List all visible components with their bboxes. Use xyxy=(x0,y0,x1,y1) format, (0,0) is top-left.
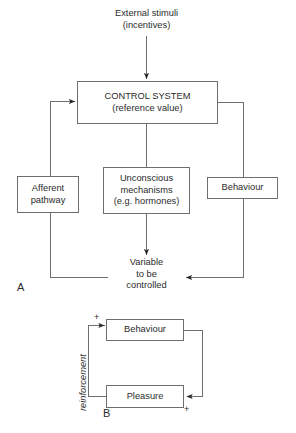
unconscious-mechanisms-box-label: Unconscious mechanisms (e.g. hormones) xyxy=(104,168,189,213)
behaviour-box-label-a: Behaviour xyxy=(208,178,277,198)
figure-container: External stimuli (incentives) CONTROL SY… xyxy=(0,0,296,433)
variable-to-be-controlled-label: Variable to be controlled xyxy=(108,257,185,292)
behaviour-box-label-b: Behaviour xyxy=(107,320,183,340)
reinforcement-label: reinforcement xyxy=(78,354,88,411)
diagram-lines xyxy=(0,0,296,433)
external-stimuli-label: External stimuli (incentives) xyxy=(81,8,212,31)
afferent-pathway-box-label: Afferent pathway xyxy=(18,177,78,212)
control-system-box-label: CONTROL SYSTEM (reference value) xyxy=(78,82,217,123)
panel-b-letter: B xyxy=(103,407,110,419)
pleasure-box-label: Pleasure xyxy=(107,386,183,407)
plus-sign-top: + xyxy=(94,312,99,322)
plus-sign-bottom: + xyxy=(184,404,189,414)
panel-a-letter: A xyxy=(17,281,24,293)
